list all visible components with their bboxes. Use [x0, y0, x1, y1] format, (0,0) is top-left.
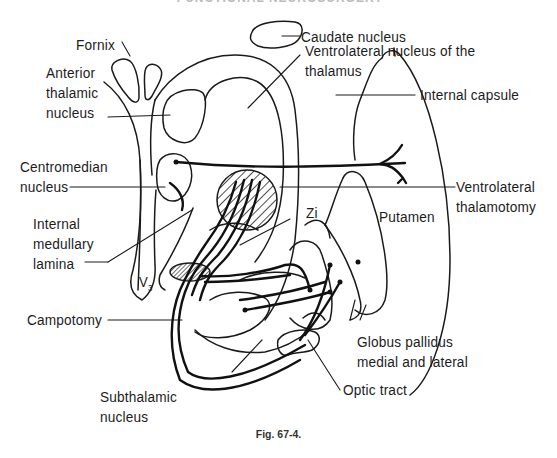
label-anterior-line3: nucleus	[46, 104, 94, 122]
label-zi: Zi	[306, 204, 318, 222]
label-fornix: Fornix	[76, 36, 115, 54]
label-centromedian-line2: nucleus	[20, 178, 68, 196]
label-campotomy: Campotomy	[27, 311, 102, 329]
label-internal-medullary-line2: medullary	[33, 235, 94, 253]
label-putamen: Putamen	[379, 208, 435, 226]
label-anterior-line1: Anterior	[46, 64, 95, 82]
label-vl-nucleus-line1: Ventrolateral nucleus of the	[305, 42, 475, 60]
label-vl-nucleus-line2: thalamus	[305, 62, 362, 80]
subthalamic-shape	[195, 292, 270, 338]
putamen-shape	[343, 172, 387, 315]
label-subthalamic-line1: Subthalamic	[100, 388, 177, 406]
figure-caption: Fig. 67-4.	[0, 428, 557, 440]
label-optic-tract: Optic tract	[343, 381, 407, 399]
caudate-shape	[250, 21, 302, 48]
fornix-left	[112, 59, 139, 102]
label-internal-capsule: Internal capsule	[420, 86, 519, 104]
label-globus-line2: medial and lateral	[357, 353, 468, 371]
optic-tract-shape	[278, 330, 320, 355]
globus-lateral	[325, 225, 361, 320]
label-globus-line1: Globus pallidus	[357, 333, 453, 351]
anterior-nucleus	[163, 90, 205, 143]
label-anterior-line2: thalamic	[46, 84, 98, 102]
label-vl-thalamotomy-line1: Ventrolateral	[456, 178, 535, 196]
label-centromedian-line1: Centromedian	[20, 158, 108, 176]
figure-canvas: FUNCTIONAL NEUROSURGERY	[0, 0, 557, 458]
label-internal-medullary-line1: Internal	[33, 215, 80, 233]
label-vl-thalamotomy-line2: thalamotomy	[456, 198, 536, 216]
label-v3: V3	[139, 273, 153, 297]
label-subthalamic-line2: nucleus	[100, 408, 148, 426]
label-internal-medullary-line3: lamina	[33, 255, 74, 273]
